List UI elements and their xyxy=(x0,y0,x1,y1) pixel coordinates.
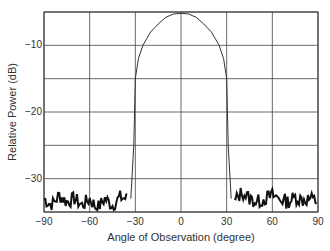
y-tick-labels: −10−20−30 xyxy=(25,39,42,183)
y-tick-label: −20 xyxy=(25,106,42,117)
y-tick-label: −30 xyxy=(25,173,42,184)
x-tick-label: 0 xyxy=(178,216,184,227)
noise-floor-right xyxy=(234,188,316,209)
x-tick-label: −60 xyxy=(81,216,98,227)
x-tick-labels: −90−60−300306090 xyxy=(36,216,324,227)
y-axis-label: Relative Power (dB) xyxy=(6,63,18,161)
x-axis-label: Angle of Observation (degree) xyxy=(107,231,254,243)
x-tick-label: 90 xyxy=(312,216,324,227)
x-tick-label: 30 xyxy=(221,216,233,227)
x-tick-label: 60 xyxy=(267,216,279,227)
chart: −90−60−300306090 −10−20−30 Angle of Obse… xyxy=(0,0,330,251)
noise-floor-left xyxy=(44,191,127,210)
x-tick-label: −30 xyxy=(127,216,144,227)
x-tick-label: −90 xyxy=(36,216,53,227)
grid xyxy=(44,12,318,212)
y-tick-label: −10 xyxy=(25,39,42,50)
